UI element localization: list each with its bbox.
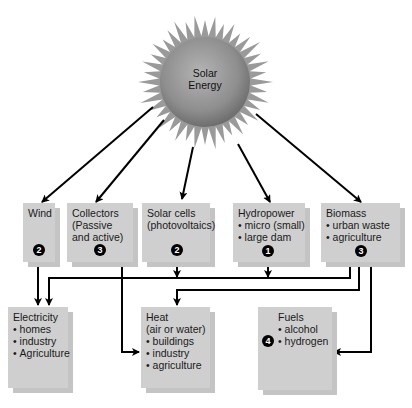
output-title: Heat (146, 311, 205, 323)
output-item: buildings (146, 335, 205, 347)
arrow-sun-to-solar-cells (182, 147, 193, 199)
output-item: hydrogen (278, 335, 327, 347)
output-item: agriculture (146, 359, 205, 371)
number-badge-icon: 2 (171, 244, 183, 256)
output-item: Agriculture (13, 347, 63, 359)
output-box-fuels: Fuels alcohol hydrogen 4 (258, 307, 332, 390)
source-subtitle: (photovoltaics) (147, 219, 205, 231)
source-box-solar-cells: Solar cells (photovoltaics) 2 (142, 203, 210, 262)
source-title: Wind (28, 207, 50, 219)
source-box-hydropower: Hydropower micro (small) large dam 1 (233, 203, 305, 262)
source-subtitle: and active) (72, 231, 128, 243)
number-badge-icon: 3 (355, 245, 367, 257)
output-subtitle: (air or water) (146, 323, 205, 335)
output-title: Electricity (13, 311, 63, 323)
source-box-wind: Wind 2 (23, 203, 55, 262)
arrow-sun-to-biomass (256, 114, 361, 202)
source-item: urban waste (326, 219, 395, 231)
solar-energy-diagram: Solar Energy Wind 2 Collectors (Passive … (0, 0, 412, 408)
source-title: Solar cells (147, 207, 205, 219)
source-box-biomass: Biomass urban waste agriculture 3 (321, 203, 400, 262)
source-title: Hydropower (238, 207, 300, 219)
output-item: alcohol (278, 323, 327, 335)
sun-label: Solar Energy (170, 67, 240, 91)
number-badge-icon: 1 (262, 245, 274, 257)
number-badge-icon: 2 (33, 244, 45, 256)
output-item: homes (13, 323, 63, 335)
arrow-sun-to-collectors (96, 120, 164, 202)
source-title: Biomass (326, 207, 395, 219)
source-box-collectors: Collectors (Passive and active) 3 (67, 203, 133, 262)
number-badge-icon: 3 (94, 244, 106, 256)
source-item: agriculture (326, 231, 395, 243)
source-item: micro (small) (238, 219, 300, 231)
source-item: large dam (238, 231, 300, 243)
source-subtitle: (Passive (72, 219, 128, 231)
source-title: Collectors (72, 207, 128, 219)
arrow-bus-to-electricity (49, 268, 350, 305)
sun-label-line2: Energy (170, 79, 240, 91)
output-box-heat: Heat (air or water) buildings industry a… (141, 307, 210, 388)
output-title: Fuels (278, 311, 327, 323)
number-badge-icon: 4 (262, 335, 274, 347)
arrow-sun-to-hydropower (238, 144, 270, 202)
sun-label-line1: Solar (170, 67, 240, 79)
output-item: industry (13, 335, 63, 347)
output-box-electricity: Electricity homes industry Agriculture (8, 307, 68, 388)
output-item: industry (146, 347, 205, 359)
